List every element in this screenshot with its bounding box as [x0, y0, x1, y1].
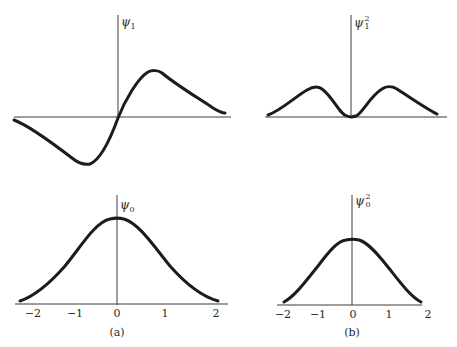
- tick-a-0: 0: [114, 308, 121, 319]
- panel-b-bottom: [277, 195, 422, 305]
- tick-a-neg1: −1: [67, 308, 83, 319]
- panel-a-top: [14, 15, 231, 164]
- tick-b-1: 1: [386, 309, 393, 320]
- psi1-label: ψ1: [121, 16, 136, 31]
- figure-canvas: [0, 0, 457, 347]
- tick-a-neg2: −2: [25, 308, 41, 319]
- psi0-squared-label: ψ20: [355, 193, 371, 209]
- caption-b: (b): [344, 327, 360, 338]
- tick-a-1: 1: [162, 308, 169, 319]
- psi1-squared-curve: [268, 87, 437, 117]
- tick-b-0: 0: [350, 309, 357, 320]
- tick-b-2: 2: [425, 309, 432, 320]
- tick-b-neg2: −2: [275, 309, 291, 320]
- psi0-label: ψ0: [120, 199, 135, 214]
- psi0-curve: [20, 218, 218, 301]
- caption-a: (a): [109, 327, 124, 338]
- psi1-squared-label: ψ21: [354, 15, 370, 31]
- tick-b-neg1: −1: [310, 309, 326, 320]
- tick-a-2: 2: [213, 308, 220, 319]
